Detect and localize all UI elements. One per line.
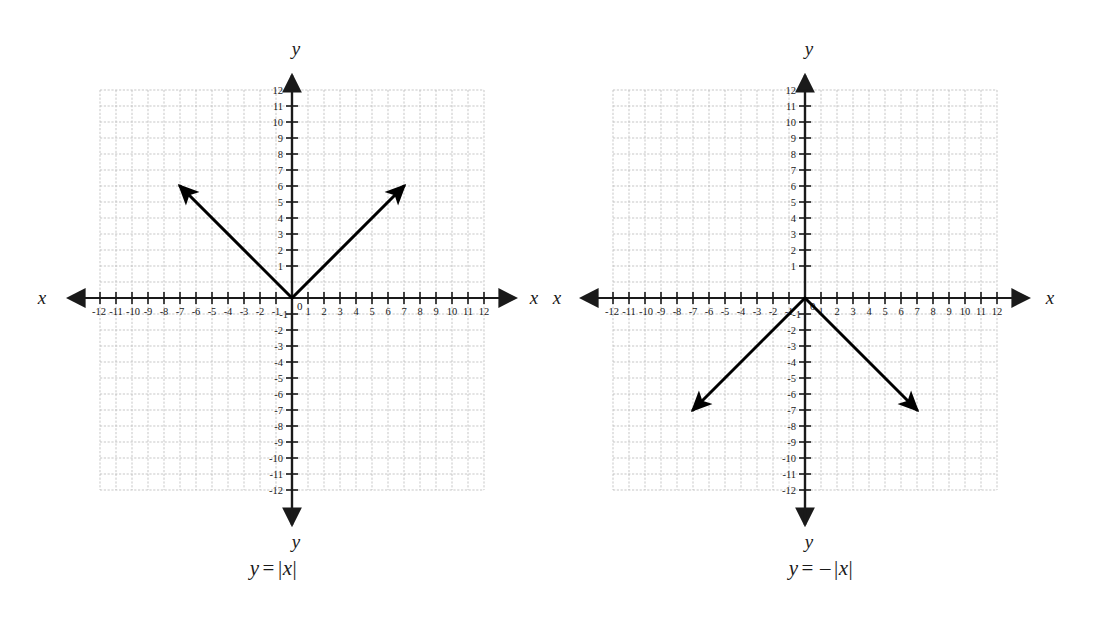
coordinate-plane-left: -12 -11 -10 -9 -8 -7 -6 -5 -4 -3 -2 -1 1… [0, 0, 547, 623]
svg-text:4: 4 [353, 306, 359, 317]
svg-text:-10: -10 [782, 453, 796, 464]
origin-label: 0 [297, 300, 303, 312]
y-tick-labels: 12 11 10 9 8 7 6 5 4 3 2 1 -1 -2 -3 -4 -… [782, 85, 801, 496]
svg-text:4: 4 [791, 213, 797, 224]
svg-text:-5: -5 [787, 373, 796, 384]
absolute-value-graph-figure: -12 -11 -10 -9 -8 -7 -6 -5 -4 -3 -2 -1 1… [0, 0, 1095, 623]
svg-text:-11: -11 [622, 306, 636, 317]
svg-text:2: 2 [791, 245, 796, 256]
panel-caption-right: y=–|x| [547, 556, 1095, 581]
svg-text:-6: -6 [192, 306, 201, 317]
svg-text:10: 10 [786, 117, 797, 128]
svg-text:-2: -2 [274, 325, 283, 336]
svg-text:-5: -5 [721, 306, 730, 317]
graph-panel-y-equals-abs-x: -12 -11 -10 -9 -8 -7 -6 -5 -4 -3 -2 -1 1… [0, 0, 547, 623]
svg-text:1: 1 [791, 261, 796, 272]
svg-text:-3: -3 [753, 306, 762, 317]
svg-text:-8: -8 [160, 306, 169, 317]
svg-text:-4: -4 [224, 306, 233, 317]
svg-text:2: 2 [321, 306, 326, 317]
svg-text:-9: -9 [144, 306, 153, 317]
svg-text:7: 7 [914, 306, 919, 317]
svg-text:7: 7 [791, 165, 796, 176]
caption-equals: = [260, 556, 278, 580]
x-tick-labels: -12 -11 -10 -9 -8 -7 -6 -5 -4 -3 -2 -1 1… [605, 306, 1002, 317]
svg-text:-10: -10 [639, 306, 653, 317]
svg-text:-9: -9 [274, 437, 283, 448]
svg-text:1: 1 [278, 261, 283, 272]
svg-text:4: 4 [278, 213, 284, 224]
svg-text:-4: -4 [274, 357, 283, 368]
svg-text:11: 11 [463, 306, 473, 317]
svg-text:-11: -11 [782, 469, 796, 480]
svg-text:8: 8 [278, 149, 283, 160]
svg-text:11: 11 [786, 101, 796, 112]
svg-text:-12: -12 [92, 306, 106, 317]
svg-text:5: 5 [882, 306, 887, 317]
svg-text:10: 10 [273, 117, 284, 128]
caption-bar-close: | [849, 556, 854, 580]
y-axis-label-top: y [290, 38, 301, 59]
svg-text:-6: -6 [787, 389, 796, 400]
panel-caption-left: y=|x| [0, 556, 547, 581]
svg-text:10: 10 [960, 306, 971, 317]
svg-text:-9: -9 [657, 306, 666, 317]
x-axis-label-left: x [37, 287, 47, 308]
svg-text:-7: -7 [274, 405, 283, 416]
svg-text:-2: -2 [787, 325, 796, 336]
y-axis-label-bottom: y [803, 531, 814, 552]
svg-text:-2: -2 [256, 306, 265, 317]
caption-lhs: y [250, 556, 260, 580]
x-axis-label-left: x [552, 287, 562, 308]
svg-text:9: 9 [946, 306, 951, 317]
svg-text:-4: -4 [737, 306, 746, 317]
svg-text:9: 9 [433, 306, 438, 317]
svg-text:5: 5 [369, 306, 374, 317]
svg-text:7: 7 [401, 306, 406, 317]
svg-text:8: 8 [417, 306, 422, 317]
svg-text:2: 2 [834, 306, 839, 317]
x-tick-labels: -12 -11 -10 -9 -8 -7 -6 -5 -4 -3 -2 -1 1… [92, 306, 489, 317]
svg-text:9: 9 [278, 133, 283, 144]
svg-text:-3: -3 [240, 306, 249, 317]
svg-text:-8: -8 [274, 421, 283, 432]
caption-variable: x [839, 556, 849, 580]
svg-text:-2: -2 [769, 306, 778, 317]
svg-text:5: 5 [278, 197, 283, 208]
svg-text:7: 7 [278, 165, 283, 176]
caption-minus-sign: – [817, 556, 834, 580]
svg-text:6: 6 [385, 306, 390, 317]
svg-text:3: 3 [278, 229, 283, 240]
svg-text:3: 3 [337, 306, 342, 317]
svg-text:2: 2 [278, 245, 283, 256]
svg-text:8: 8 [930, 306, 935, 317]
svg-text:-5: -5 [274, 373, 283, 384]
y-axis-label-top: y [803, 38, 814, 59]
svg-text:-11: -11 [269, 469, 283, 480]
svg-text:12: 12 [479, 306, 490, 317]
svg-text:5: 5 [791, 197, 796, 208]
svg-text:1: 1 [305, 306, 310, 317]
svg-text:-9: -9 [787, 437, 796, 448]
svg-text:10: 10 [447, 306, 458, 317]
svg-text:8: 8 [791, 149, 796, 160]
svg-text:3: 3 [791, 229, 796, 240]
svg-text:-5: -5 [208, 306, 217, 317]
x-axis-label-right: x [1045, 287, 1055, 308]
graph-panel-y-equals-neg-abs-x: -12 -11 -10 -9 -8 -7 -6 -5 -4 -3 -2 -1 1… [547, 0, 1095, 623]
svg-text:3: 3 [850, 306, 855, 317]
svg-text:9: 9 [791, 133, 796, 144]
svg-text:-12: -12 [269, 485, 283, 496]
svg-text:-6: -6 [274, 389, 283, 400]
x-axis-label-right: x [529, 287, 539, 308]
svg-text:-7: -7 [176, 306, 185, 317]
svg-text:12: 12 [273, 85, 284, 96]
svg-text:-12: -12 [782, 485, 796, 496]
svg-text:-3: -3 [274, 341, 283, 352]
svg-text:12: 12 [786, 85, 797, 96]
svg-text:6: 6 [791, 181, 796, 192]
svg-text:4: 4 [866, 306, 872, 317]
svg-text:-7: -7 [689, 306, 698, 317]
coordinate-plane-right: -12 -11 -10 -9 -8 -7 -6 -5 -4 -3 -2 -1 1… [547, 0, 1095, 623]
svg-text:-10: -10 [126, 306, 140, 317]
